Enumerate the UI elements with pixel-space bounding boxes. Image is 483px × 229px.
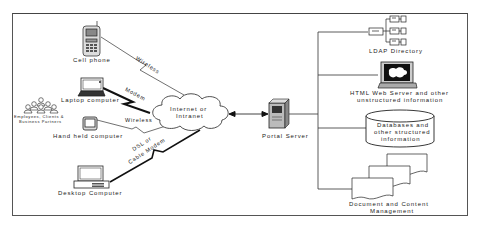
- docs-label-line1: Document and Content: [349, 201, 429, 208]
- db-label-line1: Databases and: [377, 122, 429, 129]
- ldap-label: LDAP Directory: [369, 48, 423, 55]
- cell-phone-label: Cell phone: [73, 57, 111, 64]
- edge-cell-to-cloud: [101, 37, 184, 95]
- db-label-line2: other structured: [374, 129, 430, 136]
- network-label-line1: Internet or: [170, 106, 207, 113]
- laptop-label: Laptop computer: [61, 97, 120, 104]
- db-label-line3: information: [381, 136, 421, 143]
- desktop-label: Desktop Computer: [58, 190, 122, 197]
- server-label: Portal Server: [262, 133, 309, 140]
- users-label-line2: Business Partners: [19, 119, 62, 124]
- monitor-icon: [378, 62, 417, 88]
- wireless-label-mid: Wireless: [125, 117, 152, 123]
- docs-label-line2: Management: [370, 208, 414, 215]
- directory-tree-icon: [369, 16, 406, 45]
- network-label-line2: Intranet: [176, 113, 204, 120]
- html-label-line2: unstructured information: [357, 97, 443, 104]
- edge-desktop-to-cloud: [110, 130, 200, 182]
- documents-stack-icon: [352, 154, 427, 199]
- desktop-icon: [74, 166, 109, 188]
- people-group-icon: [24, 98, 58, 113]
- laptop-icon: [78, 78, 105, 96]
- server-tower-icon: [269, 99, 289, 128]
- handheld-label: Hand held computer: [53, 133, 123, 140]
- html-label-line1: HTML Web Server and other: [350, 90, 449, 97]
- bidirectional-arrow: [229, 112, 268, 117]
- handheld-icon: [83, 117, 97, 130]
- cell-phone-icon: [83, 21, 100, 56]
- backend-bus: [289, 32, 378, 189]
